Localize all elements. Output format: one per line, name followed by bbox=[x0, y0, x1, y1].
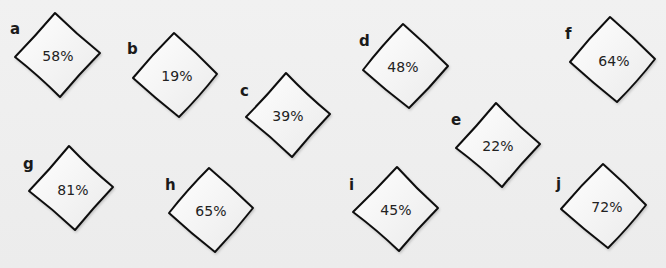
card-percentage-value: 39% bbox=[272, 109, 304, 123]
card-percentage-value: 58% bbox=[42, 49, 74, 63]
card-letter-label: c bbox=[240, 84, 249, 99]
card-percentage-value: 19% bbox=[161, 69, 193, 83]
card-letter-label: a bbox=[10, 22, 20, 37]
card-letter-label: d bbox=[359, 34, 370, 49]
card-percentage-value: 22% bbox=[482, 139, 514, 153]
card-letter-label: h bbox=[165, 178, 176, 193]
card-letter-label: e bbox=[451, 113, 461, 128]
card-percentage-value: 64% bbox=[598, 54, 630, 68]
card-letter-label: j bbox=[556, 177, 561, 192]
card-letter-label: g bbox=[23, 157, 34, 172]
diagram-canvas: a58%b19%c39%d48%e22%f64%g81%h65%i45%j72% bbox=[0, 0, 666, 268]
card-percentage-value: 65% bbox=[195, 204, 227, 218]
card-percentage-value: 72% bbox=[591, 200, 623, 214]
card-letter-label: b bbox=[127, 42, 138, 57]
card-percentage-value: 45% bbox=[380, 203, 412, 217]
card-percentage-value: 81% bbox=[57, 183, 89, 197]
card-letter-label: i bbox=[349, 178, 354, 193]
card-letter-label: f bbox=[565, 27, 572, 42]
card-percentage-value: 48% bbox=[387, 60, 419, 74]
